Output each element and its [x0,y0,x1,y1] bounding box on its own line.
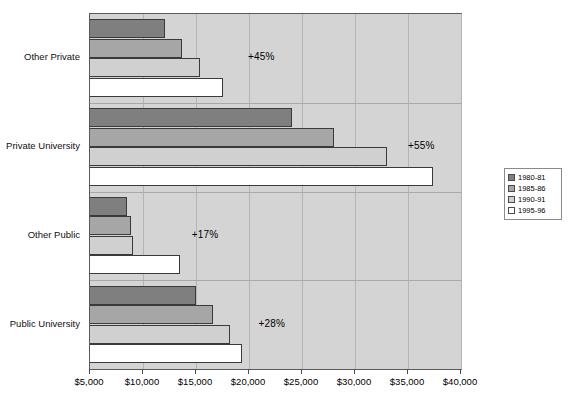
legend-item[interactable]: 1985-86 [508,183,558,194]
percent-change-annotation: +55% [408,140,435,151]
x-axis-tick [195,369,196,374]
group-separator [90,103,461,104]
x-axis-tick [354,369,355,374]
x-axis-tick-label: $20,000 [231,376,265,387]
group-separator [90,192,461,193]
legend-item-label: 1990-91 [518,195,546,204]
x-axis-tick [460,369,461,374]
legend-swatch-icon [508,196,515,203]
percent-change-annotation: +17% [192,229,219,240]
bar [90,167,433,186]
x-axis-tick-label: $35,000 [390,376,424,387]
bar [90,344,242,363]
category-label: Other Public [28,229,80,240]
bar [90,58,200,77]
legend-swatch-icon [508,174,515,181]
group-separator [90,280,461,281]
bar [90,78,223,97]
x-axis-tick-label: $5,000 [74,376,103,387]
x-axis-tick-label: $30,000 [337,376,371,387]
bar [90,147,387,166]
legend-item-label: 1995-96 [518,206,546,215]
legend-swatch-icon [508,207,515,214]
category-label: Private University [6,140,80,151]
x-axis-tick-label: $15,000 [178,376,212,387]
bar [90,236,133,255]
x-axis-tick-label: $25,000 [284,376,318,387]
percent-change-annotation: +28% [259,318,286,329]
bar [90,305,213,324]
category-axis: Other PrivatePrivate UniversityOther Pub… [0,0,84,402]
bar [90,255,180,274]
category-label: Public University [10,318,80,329]
x-axis-tick-label: $10,000 [125,376,159,387]
x-axis-tick [89,369,90,374]
bar-chart: +45%+55%+17%+28% Other PrivatePrivate Un… [0,0,569,402]
x-axis-tick [301,369,302,374]
bar [90,19,165,38]
x-axis-tick [407,369,408,374]
plot-area: +45%+55%+17%+28% [89,13,462,370]
gridline [461,14,462,369]
legend: 1980-81 1985-86 1990-91 1995-96 [504,168,562,220]
legend-item[interactable]: 1995-96 [508,205,558,216]
x-axis-tick [248,369,249,374]
x-axis-tick [142,369,143,374]
bar [90,286,196,305]
legend-swatch-icon [508,185,515,192]
bar [90,216,131,235]
legend-item-label: 1980-81 [518,173,546,182]
bar [90,128,334,147]
legend-item[interactable]: 1980-81 [508,172,558,183]
bar [90,39,182,58]
bar [90,325,230,344]
bar [90,108,292,127]
percent-change-annotation: +45% [248,51,275,62]
x-axis-tick-label: $40,000 [443,376,477,387]
bar [90,197,127,216]
category-label: Other Private [24,51,80,62]
legend-item-label: 1985-86 [518,184,546,193]
legend-item[interactable]: 1990-91 [508,194,558,205]
